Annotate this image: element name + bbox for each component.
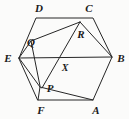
geometry-figure: ABCDEFPQRX [0,0,129,119]
segment-R-B [80,22,112,57]
point-label-Q: Q [27,37,35,48]
point-label-F: F [37,105,44,116]
segment-E-B [19,57,112,58]
shape-layer [19,18,112,100]
segment-Q-R [31,22,80,41]
point-label-C: C [85,3,92,14]
segment-R-P [42,22,80,88]
hexagon-ABCDEF [19,18,112,100]
point-label-R: R [77,29,84,40]
figure-canvas [0,0,129,119]
point-label-E: E [4,53,11,64]
point-label-X: X [62,63,69,73]
point-label-P: P [47,83,54,94]
point-label-B: B [117,53,124,64]
point-label-A: A [92,105,99,116]
segment-Q-P [31,41,40,86]
segment-P-F [38,87,40,100]
point-label-D: D [35,3,43,14]
